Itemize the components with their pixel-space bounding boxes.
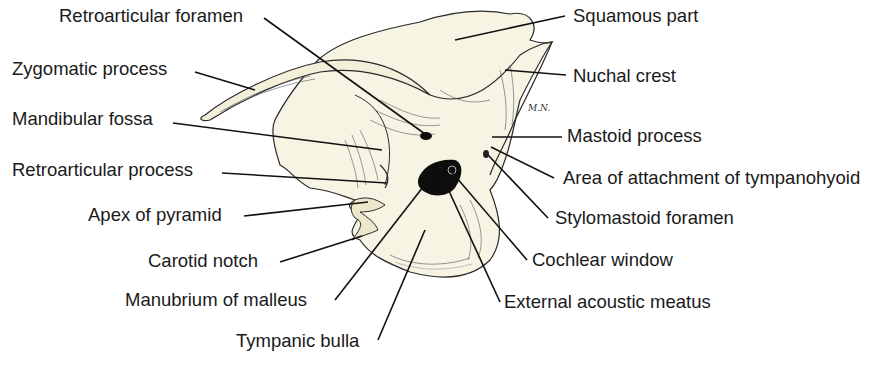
- label-zygomatic-process: Zygomatic process: [12, 58, 167, 80]
- label-external-acoustic-meatus: External acoustic meatus: [504, 291, 711, 313]
- label-squamous-part: Squamous part: [573, 5, 698, 27]
- label-tympanic-bulla: Tympanic bulla: [236, 330, 359, 352]
- label-retroarticular-process: Retroarticular process: [12, 159, 193, 181]
- label-apex-of-pyramid: Apex of pyramid: [88, 204, 222, 226]
- label-nuchal-crest: Nuchal crest: [573, 65, 676, 87]
- label-mastoid-process: Mastoid process: [567, 125, 702, 147]
- label-stylomastoid-foramen: Stylomastoid foramen: [555, 207, 734, 229]
- retroarticular-foramen-hole: [420, 132, 432, 140]
- label-manubrium-of-malleus: Manubrium of malleus: [125, 289, 307, 311]
- label-carotid-notch: Carotid notch: [148, 250, 258, 272]
- squamous-part-shape: [273, 11, 552, 277]
- label-mandibular-fossa: Mandibular fossa: [12, 108, 153, 130]
- label-cochlear-window: Cochlear window: [532, 249, 673, 271]
- label-area-of-attachment-of-tympanohyoid: Area of attachment of tympanohyoid: [563, 167, 860, 189]
- label-retroarticular-foramen: Retroarticular foramen: [59, 5, 243, 27]
- artist-signature: M.N.: [528, 103, 550, 113]
- temporal-bone-figure: Retroarticular foramen Zygomatic process…: [0, 0, 894, 368]
